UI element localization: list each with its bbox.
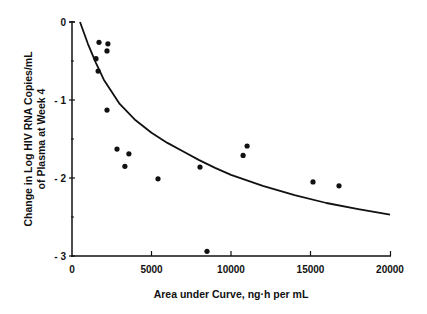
x-tick-label: 0 [69,264,75,275]
data-point [114,147,119,152]
x-tick-label: 10000 [217,264,245,275]
data-point [96,40,101,45]
x-axis-title: Area under Curve, ng·h per mL [154,288,309,300]
data-points [93,40,341,254]
data-point [93,56,98,61]
data-point [126,151,131,156]
data-point [310,179,315,184]
scatter-chart: 05000100001500020000 0- 1- 2- 3 Area und… [0,0,427,314]
y-tick-label: - 3 [54,251,66,262]
y-axis-title-line-2: of Plasma at Week 4 [35,88,47,189]
data-point [241,153,246,158]
y-tick-label: 0 [60,17,66,28]
axes [69,21,391,257]
x-tick-label: 20000 [376,264,404,275]
data-point [197,165,202,170]
data-point [104,48,109,53]
data-point [96,69,101,74]
data-point [336,183,341,188]
x-ticks: 05000100001500020000 [69,251,404,275]
y-tick-label: - 1 [54,95,66,106]
data-point [155,176,160,181]
y-axis-title-line-1: Change in Log HIV RNA Copies/mL [22,51,34,227]
data-point [204,249,209,254]
fitted-curve-path [80,22,390,215]
x-tick-label: 15000 [297,264,325,275]
y-axis-title: Change in Log HIV RNA Copies/mL of Plasm… [22,51,47,227]
y-tick-label: - 2 [54,173,66,184]
data-point [105,41,110,46]
fitted-curve [80,22,390,215]
x-tick-label: 5000 [140,264,163,275]
data-point [245,143,250,148]
data-point [122,164,127,169]
data-point [104,108,109,113]
